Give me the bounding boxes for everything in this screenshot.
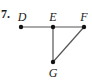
segment-fg [53, 27, 84, 62]
point-d [19, 25, 23, 29]
label-e: E [48, 10, 57, 24]
point-e [51, 25, 55, 29]
point-g [51, 60, 55, 64]
label-f: F [79, 10, 88, 24]
geometry-figure: D E F G [0, 0, 92, 81]
segments [21, 27, 84, 62]
label-g: G [49, 66, 58, 80]
label-d: D [17, 10, 27, 24]
point-f [82, 25, 86, 29]
